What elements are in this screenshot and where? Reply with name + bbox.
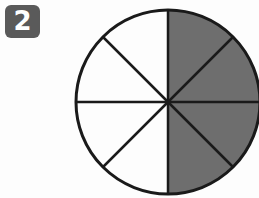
fraction-circle bbox=[0, 0, 259, 198]
sector-dividers bbox=[76, 10, 259, 194]
